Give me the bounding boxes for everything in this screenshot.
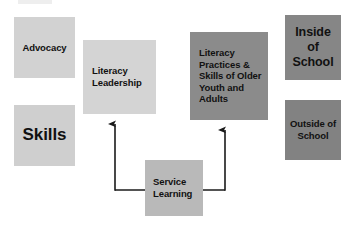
node-service-learning[interactable]: Service Learning — [145, 160, 203, 216]
node-outside-of-school-label: Outside of School — [287, 118, 339, 141]
node-advocacy[interactable]: Advocacy — [14, 17, 75, 78]
node-literacy-practices-skills-label: Literacy Practices & Skills of Older You… — [196, 47, 264, 105]
node-inside-of-school[interactable]: Inside of School — [285, 15, 341, 80]
node-advocacy-label: Advocacy — [19, 42, 69, 54]
node-inside-of-school-label: Inside of School — [289, 25, 336, 71]
node-literacy-leadership[interactable]: Literacy Leadership — [83, 40, 156, 114]
node-literacy-practices-skills[interactable]: Literacy Practices & Skills of Older You… — [190, 32, 268, 120]
node-skills[interactable]: Skills — [14, 105, 75, 166]
scan-artifact — [18, 0, 52, 4]
node-literacy-leadership-label: Literacy Leadership — [89, 65, 145, 88]
concept-map-diagram: Advocacy Skills Literacy Leadership Lite… — [0, 0, 352, 228]
node-skills-label: Skills — [20, 125, 70, 146]
node-outside-of-school[interactable]: Outside of School — [285, 100, 341, 160]
node-service-learning-label: Service Learning — [150, 176, 195, 199]
